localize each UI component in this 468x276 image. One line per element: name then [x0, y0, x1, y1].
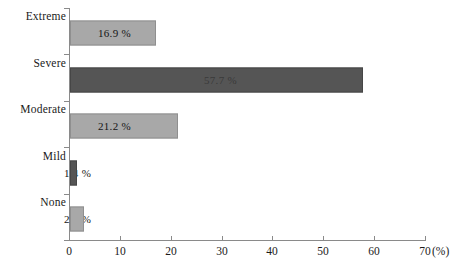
category-label-none: None	[0, 196, 66, 208]
bar-row-moderate: Moderate 21.2 %	[0, 103, 468, 149]
bar-row-extreme: Extreme 16.9 %	[0, 10, 468, 56]
category-label-severe: Severe	[0, 57, 66, 69]
x-axis-label-60: 60	[359, 245, 389, 257]
bar-mild	[70, 161, 77, 186]
bar-row-severe: Severe 57.7 %	[0, 57, 468, 103]
bar-value-severe: 57.7 %	[204, 74, 237, 86]
bar-row-none: None 2.8 %	[0, 196, 468, 242]
x-axis-unit-label: (%)	[432, 245, 449, 257]
bar-chart: Extreme 16.9 % Severe 57.7 % Moderate 21…	[0, 0, 468, 276]
x-axis-label-30: 30	[207, 245, 237, 257]
x-axis-label-50: 50	[308, 245, 338, 257]
category-label-mild: Mild	[0, 150, 66, 162]
x-axis-label-10: 10	[105, 245, 135, 257]
x-axis-label-40: 40	[257, 245, 287, 257]
x-axis-label-0: 0	[54, 245, 84, 257]
category-label-extreme: Extreme	[0, 10, 66, 22]
bar-row-mild: Mild 1.4 %	[0, 150, 468, 196]
bar-value-mild: 1.4 %	[64, 167, 91, 179]
bar-value-moderate: 21.2 %	[98, 120, 131, 132]
bar-value-extreme: 16.9 %	[98, 27, 131, 39]
y-axis-tick	[64, 8, 69, 9]
bar-none	[70, 207, 84, 232]
x-axis-label-20: 20	[156, 245, 186, 257]
category-label-moderate: Moderate	[0, 103, 66, 115]
